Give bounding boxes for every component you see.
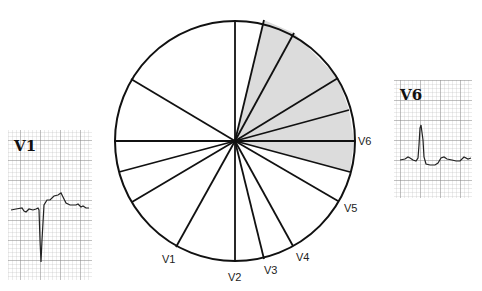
axis-spoke: [235, 141, 293, 246]
ecg-strip-v1: V1: [8, 130, 92, 280]
axis-spoke: [176, 141, 235, 247]
axis-spoke: [235, 141, 264, 259]
strip-title-v1: V1: [13, 137, 36, 155]
axis-spoke: [119, 141, 235, 172]
lead-label-v3: V3: [264, 264, 277, 276]
shaded-sector: [235, 20, 354, 172]
lead-label-v2: V2: [228, 271, 241, 283]
axis-spoke: [132, 141, 235, 202]
ecg-strip-v6: V6: [394, 80, 472, 198]
lead-label-v6: V6: [358, 135, 371, 147]
lead-axis-diagram: V1 V6 V6V5V4V3V2V1: [0, 0, 482, 291]
lead-label-v5: V5: [344, 202, 357, 214]
strip-title-v6: V6: [399, 86, 422, 104]
axis-spoke: [131, 79, 235, 141]
lead-label-v1: V1: [162, 253, 175, 265]
lead-label-v4: V4: [296, 251, 309, 263]
